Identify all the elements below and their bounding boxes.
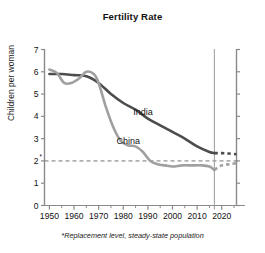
x-tick-label: 1960 — [64, 211, 83, 221]
fertility-rate-chart-figure: Fertility Rate Children per woman 012*34… — [0, 0, 265, 253]
y-tick-label: 1 — [34, 178, 39, 188]
series-line-china — [49, 70, 214, 170]
x-axis-ticks — [49, 206, 234, 210]
x-tick-label: 1980 — [114, 211, 133, 221]
y-tick-label: 3 — [34, 134, 39, 144]
series-projection-china — [214, 163, 236, 170]
x-tick-label: 2000 — [163, 211, 182, 221]
y-tick-label: 0 — [34, 201, 39, 211]
series-lines — [49, 70, 236, 170]
y-tick-label: 6 — [34, 67, 39, 77]
y-tick-label: 2 — [34, 156, 39, 166]
x-tick-label: 1990 — [138, 211, 157, 221]
y-axis-tick-labels: 012*34567 — [34, 45, 43, 211]
footnote-replacement-level: *Replacement level, steady-state populat… — [0, 231, 265, 240]
x-tick-label: 2020 — [212, 211, 231, 221]
y-tick-label: 5 — [34, 89, 39, 99]
x-tick-label: 1950 — [40, 211, 59, 221]
x-axis-tick-labels: 19501960197019801990200020102020 — [40, 211, 232, 221]
x-tick-label: 2010 — [188, 211, 207, 221]
plot-area: 012*34567 195019601970198019902000201020… — [0, 0, 265, 253]
y-tick-label: 7 — [34, 45, 39, 55]
series-label-china: China — [116, 136, 140, 146]
x-tick-label: 1970 — [89, 211, 108, 221]
series-inline-labels: IndiaChina — [116, 107, 152, 146]
series-label-india: India — [133, 107, 153, 117]
y-tick-label-asterisk: * — [40, 153, 43, 160]
series-projection-india — [214, 153, 236, 154]
y-tick-label: 4 — [34, 111, 39, 121]
